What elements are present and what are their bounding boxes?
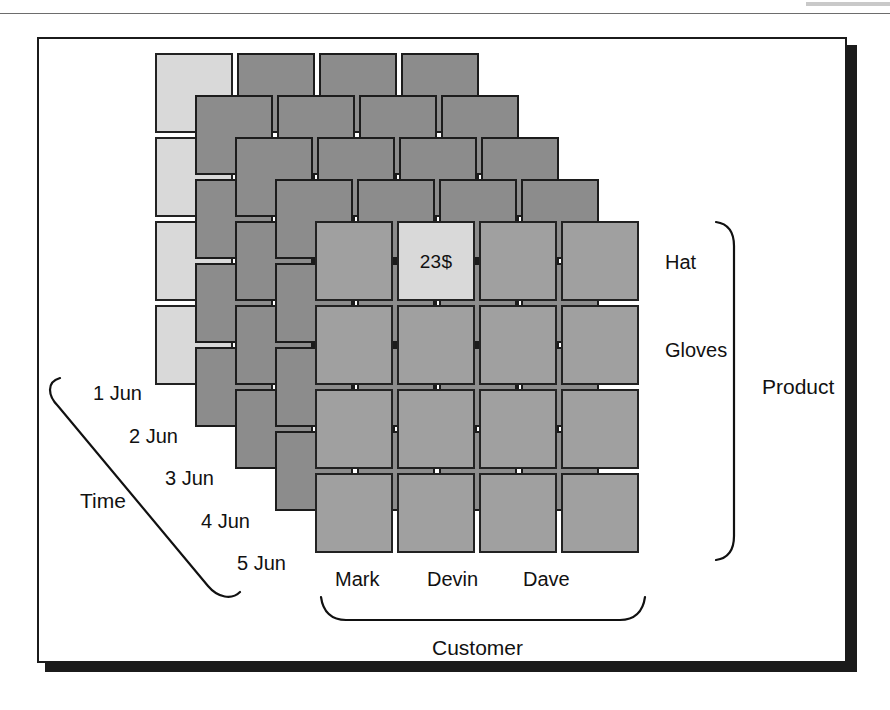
customer-tick-devin: Devin <box>427 569 478 589</box>
cube-cell[interactable] <box>561 305 639 385</box>
cube-cell[interactable] <box>561 221 639 301</box>
cube-cell[interactable] <box>315 221 393 301</box>
cube-cell[interactable] <box>397 389 475 469</box>
figure-page: 23$ 1 Jun2 Jun3 Jun4 Jun5 Jun Time Hat G… <box>0 0 890 710</box>
cube-cell-value: 23$ <box>420 252 452 271</box>
cube-cell[interactable] <box>479 305 557 385</box>
cube-cell[interactable] <box>561 473 639 553</box>
time-axis-label: Time <box>80 490 126 511</box>
cube-layer: 23$ <box>315 221 643 557</box>
cube-cell[interactable] <box>479 473 557 553</box>
product-axis-brace <box>712 218 752 568</box>
cube-cell[interactable] <box>561 389 639 469</box>
customer-tick-mark: Mark <box>335 569 379 589</box>
customer-tick-dave: Dave <box>523 569 570 589</box>
cube-cell[interactable] <box>397 305 475 385</box>
cube-cell[interactable] <box>315 305 393 385</box>
cube-cell[interactable] <box>479 389 557 469</box>
customer-axis-label: Customer <box>432 637 523 658</box>
product-axis-label: Product <box>762 376 834 397</box>
cube-cell[interactable] <box>315 473 393 553</box>
product-tick-hat: Hat <box>665 252 696 272</box>
cube-cell-highlighted[interactable]: 23$ <box>397 221 475 301</box>
cube-cell[interactable] <box>315 389 393 469</box>
cube-cell[interactable] <box>479 221 557 301</box>
cube-cell[interactable] <box>397 473 475 553</box>
customer-axis-brace <box>318 594 653 630</box>
